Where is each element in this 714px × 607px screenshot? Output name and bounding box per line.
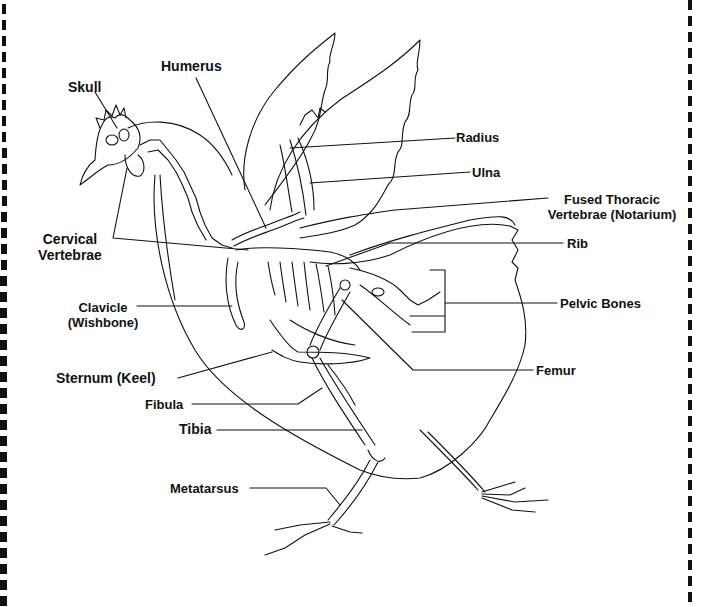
label-tibia: Tibia	[179, 421, 211, 437]
leader-radius	[290, 138, 455, 148]
label-clavicle-line1: Clavicle	[60, 300, 146, 315]
metatarsus-left	[328, 460, 378, 525]
tail-feathers	[350, 217, 515, 255]
humerus-bone	[232, 212, 300, 240]
label-fused-thoracic-line1: Fused Thoracic	[537, 192, 687, 207]
leader-rib	[326, 243, 563, 266]
label-femur: Femur	[536, 363, 576, 378]
right-foot	[482, 482, 548, 512]
ribcage	[236, 248, 360, 270]
sternum-bone	[270, 320, 370, 364]
label-fibula: Fibula	[145, 397, 183, 412]
label-clavicle: Clavicle (Wishbone)	[60, 300, 146, 330]
label-ulna: Ulna	[472, 165, 500, 180]
label-humerus: Humerus	[161, 58, 222, 74]
label-cervical-line2: Vertebrae	[28, 247, 112, 263]
leader-metatarsus	[250, 488, 340, 505]
leader-pelvic	[410, 270, 557, 332]
leader-ulna	[310, 172, 470, 183]
label-metatarsus: Metatarsus	[170, 481, 239, 496]
label-clavicle-line2: (Wishbone)	[60, 315, 146, 330]
label-skull: Skull	[68, 79, 101, 95]
leader-femur	[342, 300, 533, 370]
leader-sternum	[178, 352, 272, 378]
clavicle-bone	[226, 258, 244, 329]
label-fused-thoracic-vertebrae: Fused Thoracic Vertebrae (Notarium)	[537, 192, 687, 222]
label-radius: Radius	[456, 130, 499, 145]
label-sternum: Sternum (Keel)	[56, 370, 156, 386]
head	[80, 115, 140, 185]
radius-ulna-bones	[280, 138, 314, 215]
left-foot	[265, 522, 362, 555]
pelvic-bones	[350, 268, 440, 305]
leader-fibula	[192, 388, 322, 404]
left-wing	[244, 33, 335, 205]
fibula-bone	[328, 365, 355, 405]
label-pelvic-bones: Pelvic Bones	[560, 296, 641, 311]
label-cervical-vertebrae: Cervical Vertebrae	[28, 231, 112, 263]
leader-humerus	[196, 78, 266, 228]
femur-bone	[310, 288, 350, 350]
tibia-bone	[312, 358, 375, 445]
label-cervical-line1: Cervical	[28, 231, 112, 247]
leader-fused-thoracic	[300, 198, 548, 228]
label-fused-thoracic-line2: Vertebrae (Notarium)	[537, 207, 687, 222]
label-rib: Rib	[567, 236, 588, 251]
